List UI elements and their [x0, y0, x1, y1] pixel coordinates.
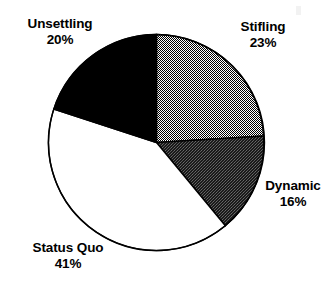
pie-label-dynamic-value: 16% [254, 194, 332, 210]
pie-label-unsettling: Unsettling 20% [8, 16, 112, 47]
pie-label-status-quo: Status Quo 41% [6, 240, 130, 271]
pie-label-status-quo-value: 41% [6, 256, 130, 272]
pie-label-dynamic: Dynamic 16% [254, 178, 332, 209]
pie-label-stifling-name: Stifling [217, 19, 309, 35]
scan-artifact [296, 6, 301, 15]
pie-label-dynamic-name: Dynamic [254, 178, 332, 194]
pie-chart-figure: Unsettling 20% Stifling 23% Dynamic 16% … [0, 0, 332, 293]
pie-label-unsettling-value: 20% [8, 32, 112, 48]
pie-label-stifling: Stifling 23% [217, 19, 309, 50]
pie-label-status-quo-name: Status Quo [6, 240, 130, 256]
pie-label-unsettling-name: Unsettling [8, 16, 112, 32]
pie-label-stifling-value: 23% [217, 35, 309, 51]
pie-slice-stifling[interactable] [157, 35, 264, 143]
